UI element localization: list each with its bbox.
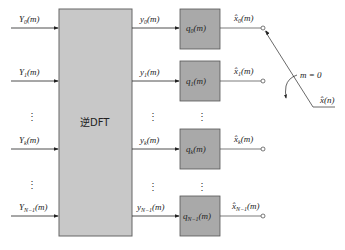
svg-text:q0(m): q0(m): [186, 23, 206, 34]
switch-contact-1: [261, 79, 265, 83]
svg-text:yk(m): yk(m): [139, 135, 159, 146]
svg-text:x̂k(m): x̂k(m): [233, 134, 253, 145]
branch-k: yk(m) qk(m) x̂k(m): [132, 129, 265, 169]
q-ellipsis-2: ⋮: [197, 181, 207, 192]
svg-text:y1(m): y1(m): [139, 67, 160, 78]
svg-text:Y0(m): Y0(m): [19, 14, 40, 25]
input-0: Y0(m): [11, 14, 58, 28]
q-ellipsis-1: ⋮: [197, 111, 207, 122]
svg-text:Y1(m): Y1(m): [19, 67, 40, 78]
output-label: x̂(n): [319, 95, 335, 105]
input-1: Y1(m): [11, 67, 58, 81]
input-ellipsis-1: ⋮: [27, 111, 37, 122]
mid-ellipsis-1: ⋮: [148, 111, 158, 122]
switch-contact-n-1: [261, 214, 265, 218]
input-k: Yk(m): [11, 135, 58, 149]
svg-text:yN−1(m): yN−1(m): [136, 202, 165, 213]
svg-text:qk(m): qk(m): [186, 144, 206, 155]
input-n-1: YN−1(m): [11, 202, 58, 216]
branch-n-1: yN−1(m) qN−1(m) x̂N−1(m): [132, 196, 265, 236]
input-ellipsis-2: ⋮: [27, 179, 37, 190]
svg-text:Yk(m): Yk(m): [19, 135, 39, 146]
branch-1: y1(m) q1(m) x̂1(m): [132, 61, 265, 101]
switch-label: m = 0: [300, 70, 322, 80]
idft-label: 逆DFT: [80, 116, 110, 128]
branch-0: y0(m) q0(m) x̂0(m): [132, 9, 265, 49]
switch-contact-k: [261, 147, 265, 151]
svg-text:q1(m): q1(m): [186, 76, 206, 87]
svg-text:y0(m): y0(m): [139, 14, 160, 25]
svg-text:x̂0(m): x̂0(m): [233, 13, 254, 24]
commutator-switch: x̂(n) m = 0: [265, 31, 335, 107]
mid-ellipsis-2: ⋮: [148, 181, 158, 192]
polyphase-synthesis-diagram: 逆DFT Y0(m) Y1(m) ⋮ Yk(m) ⋮ YN−1(m) y0(m)…: [0, 0, 345, 250]
svg-text:YN−1(m): YN−1(m): [19, 202, 48, 213]
svg-text:x̂1(m): x̂1(m): [233, 66, 254, 77]
svg-text:x̂N−1(m): x̂N−1(m): [231, 201, 260, 212]
switch-contact-0: [261, 26, 265, 30]
